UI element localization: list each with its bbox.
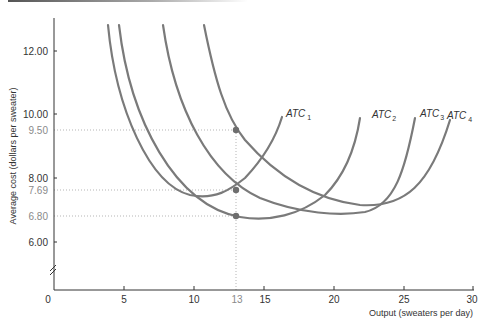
y-tick-6-80: 6.80 — [29, 211, 49, 222]
curve-labels: ATC1 ATC2 ATC3 ATC4 — [285, 108, 472, 123]
x-tick-13: 13 — [231, 294, 243, 305]
y-tick-6: 6.00 — [29, 237, 49, 248]
point-atc4-13-9-50 — [233, 127, 239, 133]
axis-break-icon — [50, 265, 56, 275]
y-tick-8: 8.00 — [29, 173, 49, 184]
point-atc2-13-6-80 — [233, 213, 239, 219]
label-atc2: ATC2 — [371, 109, 396, 122]
curve-atc4 — [204, 25, 450, 205]
x-tick-0: 0 — [45, 294, 51, 305]
y-tick-7-69: 7.69 — [29, 185, 49, 196]
label-atc3: ATC3 — [419, 108, 444, 121]
x-tick-10: 10 — [188, 294, 200, 305]
x-tick-20: 20 — [328, 294, 340, 305]
point-atc1-13-7-69 — [233, 187, 239, 193]
y-tick-10: 10.00 — [23, 109, 48, 120]
x-axis-title: Output (sweaters per day) — [369, 308, 473, 318]
x-tick-30: 30 — [466, 294, 478, 305]
x-tick-labels: 0 5 10 13 15 20 25 30 — [45, 294, 478, 305]
curve-atc2 — [119, 25, 360, 219]
curve-atc1 — [108, 25, 282, 196]
x-tick-25: 25 — [398, 294, 410, 305]
y-axis-title: Average cost (dollars per sweater) — [8, 88, 18, 225]
y-tick-12: 12.00 — [23, 46, 48, 57]
x-tick-15: 15 — [259, 294, 271, 305]
label-atc1: ATC1 — [285, 108, 311, 121]
atc-chart: 12.00 10.00 9.50 8.00 7.69 6.80 6.00 0 5… — [0, 0, 486, 321]
x-tick-5: 5 — [121, 294, 127, 305]
y-tick-9-50: 9.50 — [29, 125, 49, 136]
y-tick-labels: 12.00 10.00 9.50 8.00 7.69 6.80 6.00 — [23, 46, 48, 248]
